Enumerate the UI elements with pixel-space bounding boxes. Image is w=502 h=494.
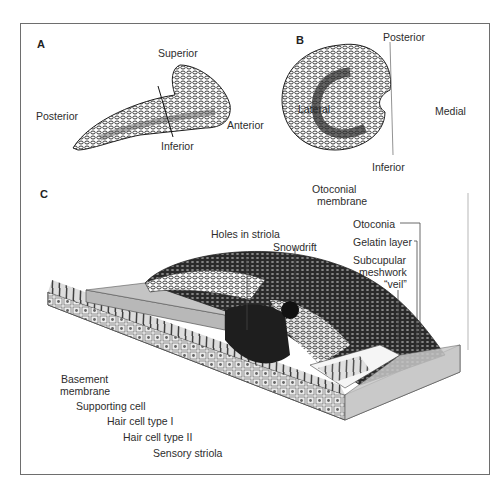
label-snowdrift: Snowdrift <box>273 241 317 253</box>
label-hair-cell-type-1: Hair cell type I <box>107 415 174 427</box>
panel-label-c: C <box>40 188 48 200</box>
label-a-superior: Superior <box>158 47 198 59</box>
label-b-lateral: Lateral <box>298 103 330 115</box>
diagram-illustration <box>0 0 502 494</box>
label-a-inferior: Inferior <box>161 140 194 152</box>
label-basement-membrane-line1: Basement <box>61 373 108 385</box>
panel-a-macula <box>73 65 230 150</box>
label-otoconial-membrane-line2: membrane <box>317 195 367 207</box>
panel-label-b: B <box>296 34 304 46</box>
label-holes-in-striola: Holes in striola <box>211 228 280 240</box>
label-sensory-striola: Sensory striola <box>153 447 222 459</box>
label-b-medial: Medial <box>435 105 466 117</box>
label-hair-cell-type-2: Hair cell type II <box>123 431 192 443</box>
label-a-posterior: Posterior <box>36 110 78 122</box>
label-otoconial-membrane-line1: Otoconial <box>312 183 356 195</box>
panel-label-a: A <box>37 38 45 50</box>
label-supporting-cell: Supporting cell <box>76 400 145 412</box>
label-subcupular-line1: Subcupular <box>353 254 406 266</box>
panel-b-macula <box>282 42 393 155</box>
label-otoconia: Otoconia <box>353 218 395 230</box>
label-gelatin-layer: Gelatin layer <box>353 236 412 248</box>
label-b-inferior: Inferior <box>372 161 405 173</box>
label-b-posterior: Posterior <box>383 31 425 43</box>
label-subcupular-line3: “veil” <box>384 278 407 290</box>
label-a-anterior: Anterior <box>227 119 264 131</box>
label-basement-membrane-line2: membrane <box>60 385 110 397</box>
label-subcupular-line2: meshwork <box>359 266 407 278</box>
